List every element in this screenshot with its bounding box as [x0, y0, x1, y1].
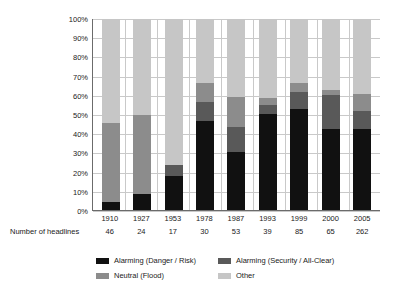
bar-segment[interactable] — [196, 19, 214, 83]
bar-segment[interactable] — [165, 165, 183, 176]
bar-column[interactable] — [322, 19, 340, 210]
legend-swatch — [96, 258, 109, 264]
y-axis: 100%90%80%70%60%50%40%30%20%10%0% — [50, 19, 88, 211]
y-axis-tick-label: 10% — [73, 187, 88, 196]
bar-column[interactable] — [259, 19, 277, 210]
x-axis-year-label: 1910 — [101, 214, 119, 223]
legend-swatch — [96, 273, 109, 279]
bar-segment[interactable] — [353, 19, 371, 93]
bar-column[interactable] — [133, 19, 151, 210]
headline-count-value: 262 — [353, 227, 371, 236]
headline-count-value: 53 — [227, 227, 245, 236]
y-axis-tick-label: 30% — [73, 149, 88, 158]
legend-item[interactable]: Neutral (Flood) — [96, 271, 218, 280]
bar-segment[interactable] — [353, 129, 371, 210]
legend-swatch — [218, 273, 231, 279]
bar-segment[interactable] — [227, 19, 245, 97]
bar-segment[interactable] — [227, 97, 245, 127]
bar-column[interactable] — [102, 19, 120, 210]
x-axis-year-label: 1978 — [195, 214, 213, 223]
bar-segment[interactable] — [102, 202, 120, 210]
gridline-horizontal — [93, 211, 380, 212]
headline-count-value: 30 — [195, 227, 213, 236]
bar-segment[interactable] — [227, 152, 245, 210]
x-axis-year-label: 1927 — [132, 214, 150, 223]
bar-segment[interactable] — [227, 127, 245, 152]
bar-segment[interactable] — [196, 121, 214, 210]
bar-segment[interactable] — [259, 105, 277, 114]
bar-segment[interactable] — [133, 115, 151, 195]
x-axis-year-label: 2005 — [353, 214, 371, 223]
x-axis-count-labels: 4624173053398565262 — [92, 227, 380, 236]
headline-count-value: 46 — [101, 227, 119, 236]
legend-label: Other — [236, 271, 255, 280]
bar-segment[interactable] — [322, 19, 340, 90]
bar-segment[interactable] — [353, 94, 371, 111]
bar-segment[interactable] — [322, 95, 340, 128]
bar-column[interactable] — [196, 19, 214, 210]
bar-segment[interactable] — [165, 176, 183, 210]
stacked-bar-chart: 100%90%80%70%60%50%40%30%20%10%0% 191019… — [0, 0, 405, 285]
headline-count-value: 24 — [132, 227, 150, 236]
bar-segment[interactable] — [133, 194, 151, 210]
x-axis-year-label: 1987 — [227, 214, 245, 223]
bar-segment[interactable] — [102, 123, 120, 202]
x-axis-year-label: 1993 — [259, 214, 277, 223]
y-axis-tick-label: 70% — [73, 72, 88, 81]
headline-count-row-label: Number of headlines — [10, 227, 79, 236]
legend-item[interactable]: Alarming (Danger / Risk) — [96, 256, 218, 265]
bar-column[interactable] — [353, 19, 371, 210]
bar-segment[interactable] — [196, 102, 214, 121]
x-axis-year-label: 1999 — [290, 214, 308, 223]
y-axis-tick-label: 80% — [73, 53, 88, 62]
headline-count-value: 65 — [322, 227, 340, 236]
y-axis-tick-label: 90% — [73, 34, 88, 43]
headline-count-value: 17 — [164, 227, 182, 236]
x-axis-year-label: 2000 — [322, 214, 340, 223]
y-axis-tick-label: 50% — [73, 111, 88, 120]
headline-count-value: 39 — [259, 227, 277, 236]
bar-group — [93, 19, 380, 210]
bar-column[interactable] — [165, 19, 183, 210]
legend-item[interactable]: Other — [218, 271, 396, 280]
legend-label: Alarming (Security / All-Clear) — [236, 256, 334, 265]
bar-segment[interactable] — [102, 19, 120, 123]
bar-segment[interactable] — [290, 83, 308, 92]
legend-swatch — [218, 258, 231, 264]
y-axis-tick-label: 100% — [69, 15, 88, 24]
bar-segment[interactable] — [290, 92, 308, 109]
bar-segment[interactable] — [196, 83, 214, 102]
y-axis-tick-label: 40% — [73, 130, 88, 139]
plot-area-wrapper — [92, 19, 380, 211]
bar-segment[interactable] — [322, 129, 340, 210]
legend-label: Alarming (Danger / Risk) — [114, 256, 196, 265]
bar-segment[interactable] — [290, 109, 308, 210]
bar-segment[interactable] — [290, 19, 308, 83]
chart-legend: Alarming (Danger / Risk)Alarming (Securi… — [96, 256, 396, 280]
bar-column[interactable] — [227, 19, 245, 210]
y-axis-tick-label: 0% — [77, 207, 88, 216]
y-axis-tick-label: 20% — [73, 168, 88, 177]
x-axis-year-label: 1953 — [164, 214, 182, 223]
legend-item[interactable]: Alarming (Security / All-Clear) — [218, 256, 396, 265]
legend-label: Neutral (Flood) — [114, 271, 164, 280]
x-axis-year-labels: 191019271953197819871993199920002005 — [92, 214, 380, 223]
headline-count-value: 85 — [290, 227, 308, 236]
bar-segment[interactable] — [133, 19, 151, 115]
plot-area — [92, 19, 380, 211]
bar-segment[interactable] — [259, 98, 277, 105]
bar-segment[interactable] — [353, 111, 371, 129]
bar-segment[interactable] — [259, 19, 277, 98]
bar-segment[interactable] — [165, 19, 183, 165]
bar-segment[interactable] — [259, 114, 277, 210]
y-axis-tick-label: 60% — [73, 91, 88, 100]
bar-column[interactable] — [290, 19, 308, 210]
